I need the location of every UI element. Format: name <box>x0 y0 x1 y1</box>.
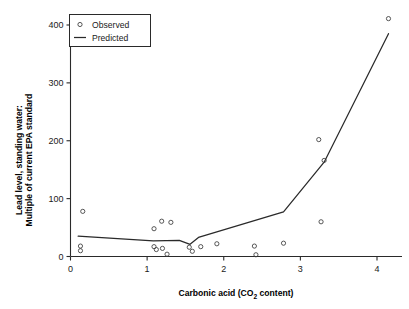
y-tick-label: 200 <box>48 136 63 146</box>
x-tick-label: 0 <box>68 264 73 274</box>
observed-data-point <box>190 249 194 253</box>
x-axis-ticks: 01234 <box>68 257 380 274</box>
x-axis-title-post: content) <box>257 288 293 298</box>
x-tick-label: 4 <box>374 264 379 274</box>
y-tick-label: 100 <box>48 194 63 204</box>
y-axis-title-line1: Lead level, standing water: <box>14 105 24 215</box>
scatter-plot-svg: 0100200300400 01234 Observed Predicted L… <box>0 0 409 309</box>
observed-data-point <box>187 245 191 249</box>
y-axis-title-line2: Multiple of current EPA standard <box>24 94 34 227</box>
chart-legend: Observed Predicted <box>70 15 151 47</box>
x-tick-label: 1 <box>145 264 150 274</box>
observed-data-point <box>78 249 82 253</box>
y-tick-label: 400 <box>48 20 63 30</box>
observed-data-point <box>160 219 164 223</box>
x-tick-label: 2 <box>221 264 226 274</box>
observed-data-point <box>319 220 323 224</box>
observed-data-point <box>199 245 203 249</box>
observed-data-point <box>152 245 156 249</box>
observed-points-group <box>78 17 390 257</box>
y-tick-label: 300 <box>48 78 63 88</box>
observed-data-point <box>78 244 82 248</box>
observed-data-point <box>281 241 285 245</box>
y-tick-label: 0 <box>58 252 63 262</box>
x-axis-title: Carbonic acid (CO2 content) <box>179 288 294 300</box>
predicted-line <box>78 34 388 245</box>
legend-observed-label: Observed <box>92 20 129 30</box>
observed-data-point <box>81 209 85 213</box>
x-tick-label: 3 <box>298 264 303 274</box>
observed-data-point <box>386 17 390 21</box>
y-axis-title: Lead level, standing water: Multiple of … <box>14 94 34 227</box>
legend-predicted-label: Predicted <box>92 33 129 43</box>
y-axis-ticks: 0100200300400 <box>48 20 70 261</box>
observed-data-point <box>165 252 169 256</box>
observed-data-point <box>317 137 321 141</box>
chart-figure: 0100200300400 01234 Observed Predicted L… <box>0 0 409 309</box>
observed-data-point <box>154 247 158 251</box>
observed-data-point <box>169 220 173 224</box>
observed-data-point <box>160 246 164 250</box>
x-axis-title-pre: Carbonic acid (CO <box>179 288 254 298</box>
axes <box>71 20 403 257</box>
observed-data-point <box>215 242 219 246</box>
observed-data-point <box>252 244 256 248</box>
observed-data-point <box>152 227 156 231</box>
